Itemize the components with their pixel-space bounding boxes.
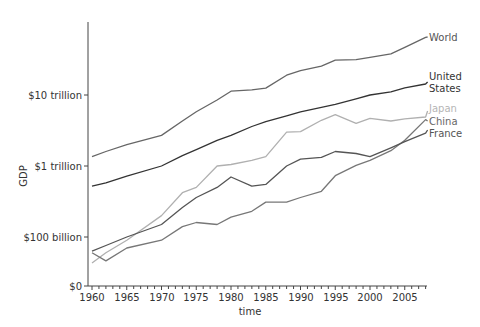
- label-china: China: [429, 116, 458, 127]
- x-tick-label: 1960: [79, 292, 104, 303]
- label-world: World: [429, 32, 458, 43]
- y-axis-title: GDP: [18, 165, 29, 186]
- series-lines: [92, 37, 428, 263]
- x-ticks: [92, 286, 426, 290]
- label-france: France: [429, 128, 462, 139]
- x-tick-label: 2005: [392, 292, 417, 303]
- y-ticks: $10 trillion $1 trillion $100 billion $0: [23, 90, 88, 292]
- line-japan: [92, 111, 428, 263]
- x-tick-label: 1995: [323, 292, 348, 303]
- y-tick-label: $100 billion: [23, 232, 82, 243]
- label-united-states-2: States: [429, 83, 461, 94]
- x-tick-label: 1990: [288, 292, 313, 303]
- gdp-line-chart: $10 trillion $1 trillion $100 billion $0…: [0, 0, 480, 327]
- y-tick-label: $0: [69, 281, 82, 292]
- y-tick-label: $10 trillion: [28, 90, 82, 101]
- x-tick-label: 1980: [218, 292, 243, 303]
- y-tick-label: $1 trillion: [34, 161, 82, 172]
- x-tick-label: 1965: [114, 292, 139, 303]
- x-tick-label: 1970: [149, 292, 174, 303]
- x-tick-label: 2000: [357, 292, 382, 303]
- line-france: [92, 130, 428, 251]
- x-tick-label: 1975: [183, 292, 208, 303]
- label-united-states-1: United: [429, 71, 462, 82]
- x-axis-title: time: [239, 306, 262, 317]
- x-tick-label: 1985: [253, 292, 278, 303]
- line-united-states: [92, 82, 428, 186]
- line-world: [92, 37, 428, 157]
- label-japan: Japan: [428, 103, 457, 114]
